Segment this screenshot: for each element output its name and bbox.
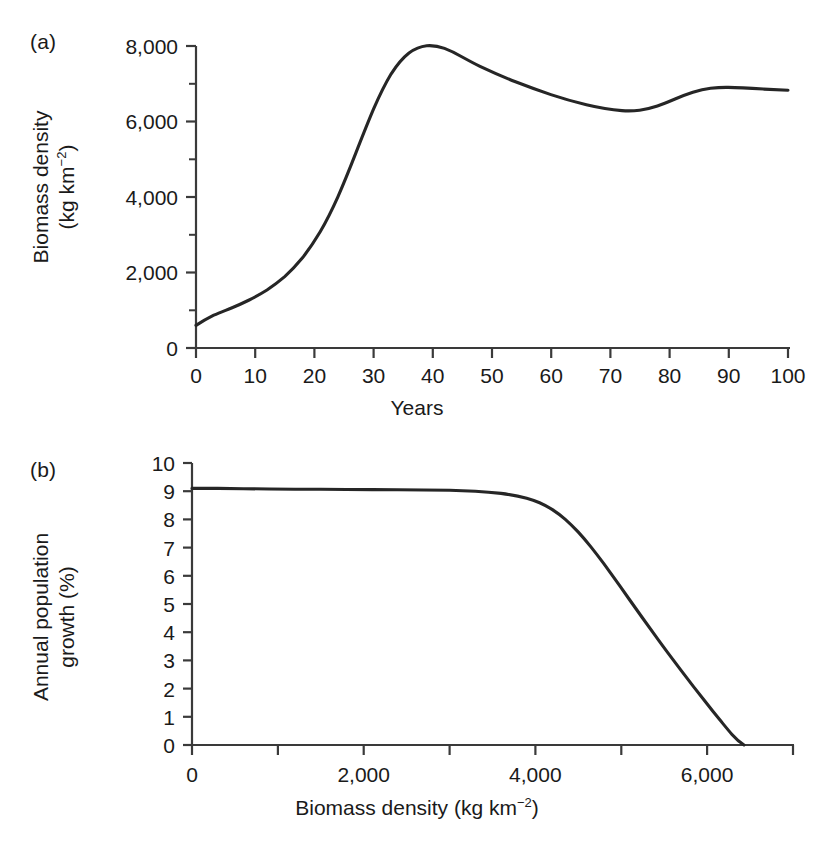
panel-b-ytick-2: 2 <box>163 678 175 701</box>
panel-b-xtick-4000: 4,000 <box>509 763 562 786</box>
panel-a-xtick-0: 0 <box>190 364 202 387</box>
panel-a-xtick-90: 90 <box>717 364 740 387</box>
panel-a-data-line <box>196 46 788 326</box>
panel-b-ytick-6: 6 <box>163 565 175 588</box>
panel-a-ytick-2000: 2,000 <box>125 261 178 284</box>
panel-a-xtick-50: 50 <box>480 364 503 387</box>
panel-a-xtick-40: 40 <box>421 364 444 387</box>
panel-a-ytick-4000: 4,000 <box>125 186 178 209</box>
panel-b-x-axis-title: Biomass density (kg km−2) <box>0 795 834 821</box>
panel-a-x-axis-title: Years <box>0 395 834 421</box>
panel-a-ytick-8000: 8,000 <box>125 35 178 58</box>
panel-b-ytick-3: 3 <box>163 649 175 672</box>
panel-a-xtick-20: 20 <box>303 364 326 387</box>
panel-a-xtick-100: 100 <box>770 364 805 387</box>
panel-a-y-major-ticks <box>186 46 196 348</box>
panel-a-plot: 8,000 6,000 4,000 2,000 0 0 10 20 30 40 … <box>0 0 834 425</box>
panel-b-xtick-0: 0 <box>186 763 198 786</box>
panel-b-xtick-6000: 6,000 <box>681 763 734 786</box>
panel-b-xtick-2000: 2,000 <box>337 763 390 786</box>
panel-a-y-tick-labels: 8,000 6,000 4,000 2,000 0 <box>125 35 178 360</box>
x-unit-pre: Biomass density (kg km <box>295 796 517 819</box>
panel-b-ytick-9: 9 <box>163 480 175 503</box>
panel-b: (b) Annual population growth (%) <box>0 425 834 851</box>
panel-a-x-ticks <box>196 348 788 358</box>
panel-b-ytick-5: 5 <box>163 593 175 616</box>
panel-b-y-tick-labels: 10 9 8 7 6 5 4 3 2 1 0 <box>152 452 176 757</box>
panel-b-data-line <box>192 488 744 745</box>
panel-b-ytick-8: 8 <box>163 508 175 531</box>
panel-b-x-ticks <box>192 745 793 755</box>
panel-b-ytick-0: 0 <box>163 734 175 757</box>
panel-a-xtick-10: 10 <box>244 364 267 387</box>
panel-b-ytick-10: 10 <box>152 452 175 475</box>
panel-a-ytick-0: 0 <box>166 337 178 360</box>
panel-a-xtick-70: 70 <box>599 364 622 387</box>
x-unit-exponent: −2 <box>517 795 532 810</box>
panel-b-ytick-7: 7 <box>163 537 175 560</box>
panel-b-plot: 10 9 8 7 6 5 4 3 2 1 0 0 2,000 4,000 6,0… <box>0 425 834 851</box>
panel-a-x-tick-labels: 0 10 20 30 40 50 60 70 80 90 100 <box>190 364 805 387</box>
panel-b-x-tick-labels: 0 2,000 4,000 6,000 <box>186 763 733 786</box>
panel-a: (a) Biomass density (kg km−2) <box>0 0 834 425</box>
panel-b-y-ticks <box>183 463 192 745</box>
panel-a-ytick-6000: 6,000 <box>125 110 178 133</box>
panel-b-ytick-4: 4 <box>163 621 175 644</box>
figure-container: (a) Biomass density (kg km−2) <box>0 0 834 851</box>
panel-a-xtick-60: 60 <box>540 364 563 387</box>
panel-a-xtick-80: 80 <box>658 364 681 387</box>
panel-b-ytick-1: 1 <box>163 706 175 729</box>
panel-a-xtick-30: 30 <box>362 364 385 387</box>
x-unit-post: ) <box>532 796 539 819</box>
